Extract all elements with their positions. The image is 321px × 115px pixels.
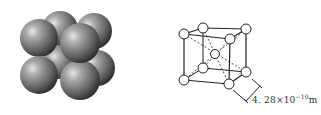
ball-and-stick-model (179, 23, 262, 103)
edge-length-label: 4. 28×10−10m (252, 93, 318, 105)
atom-front-top-left (179, 29, 189, 39)
atom-back-top-right (241, 24, 251, 34)
sphere-front-bottom-right (60, 60, 100, 100)
atom-front-bottom-left (179, 75, 189, 85)
atom-back-bottom-right (241, 67, 251, 77)
sphere-front-top-right (60, 23, 100, 63)
figure: 4. 28×10−10m (0, 0, 321, 115)
sphere-front-top-left (20, 19, 58, 57)
edge-length-unit: m (309, 95, 318, 105)
atom-front-bottom-right (224, 79, 234, 89)
space-filling-model (20, 11, 115, 100)
edge-length-mantissa: 4. 28×10 (252, 95, 296, 105)
atom-body-center (211, 50, 220, 59)
atom-front-top-right (225, 34, 235, 44)
atom-back-bottom-left (198, 63, 208, 73)
sphere-front-bottom-left (20, 56, 58, 94)
atom-back-top-left (198, 23, 208, 33)
edge-length-exponent: −10 (296, 93, 309, 100)
